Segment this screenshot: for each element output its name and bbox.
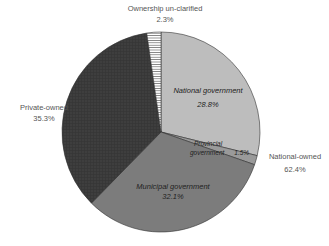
label-national-government: National government 28.8%: [168, 84, 248, 112]
label-private-pct: 35.3%: [14, 113, 74, 124]
label-unclarified: Ownership un-clarified 2.3%: [120, 3, 210, 25]
label-provincial-pct: 1.5%: [234, 149, 249, 156]
label-municipal-pct: 32.1%: [128, 192, 218, 202]
label-municipal-name: Municipal government: [128, 182, 218, 192]
label-private-name: Private-owned: [14, 102, 74, 113]
label-provincial-government: Provincial government1.5%: [190, 139, 260, 157]
label-unclarified-name: Ownership un-clarified: [120, 3, 210, 14]
label-national-owned: National-owned 62.4%: [262, 150, 328, 176]
label-national-owned-pct: 62.4%: [262, 163, 328, 176]
label-private: Private-owned 35.3%: [14, 102, 74, 124]
label-municipal-government: Municipal government 32.1%: [128, 182, 218, 202]
label-unclarified-pct: 2.3%: [120, 14, 210, 25]
label-national-government-name: National government: [168, 84, 248, 98]
label-national-government-pct: 28.8%: [168, 98, 248, 112]
label-national-owned-name: National-owned: [262, 150, 328, 163]
label-provincial-name-line2-text: government: [190, 149, 224, 156]
label-provincial-name-line2: government1.5%: [190, 148, 260, 157]
label-provincial-name-line1: Provincial: [190, 139, 260, 148]
